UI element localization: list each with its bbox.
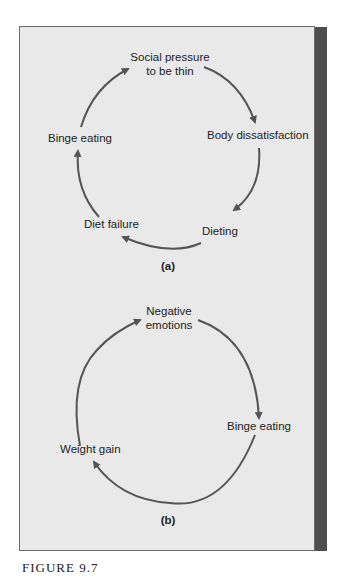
node-weight-gain: Weight gain [60, 442, 121, 456]
node-label-line1: Social pressure [130, 50, 209, 64]
node-label-line2: emotions [146, 318, 193, 332]
arrow-dieting-to-failure [123, 237, 201, 249]
label-b: (b) [161, 514, 176, 526]
node-diet-failure: Diet failure [84, 217, 139, 231]
node-social-pressure: Social pressure to be thin [130, 50, 209, 78]
node-body-dissatisfaction: Body dissatisfaction [207, 128, 309, 142]
label-a: (a) [161, 260, 175, 272]
arrow-social-to-body [204, 67, 255, 122]
node-binge-eating-a: Binge eating [48, 131, 112, 145]
arrow-negative-to-binge [198, 320, 259, 418]
node-binge-eating-b: Binge eating [227, 419, 291, 433]
node-dieting: Dieting [202, 224, 238, 238]
node-negative-emotions: Negative emotions [146, 304, 193, 332]
node-label-line2: to be thin [130, 64, 209, 78]
arrow-failure-to-binge [78, 151, 99, 217]
node-label-line1: Negative [146, 304, 193, 318]
figure-caption: FIGURE 9.7 [22, 560, 98, 576]
arrow-weight-to-negative [76, 320, 140, 446]
arrow-binge-to-social [81, 69, 128, 127]
arrow-body-to-dieting [234, 148, 259, 210]
